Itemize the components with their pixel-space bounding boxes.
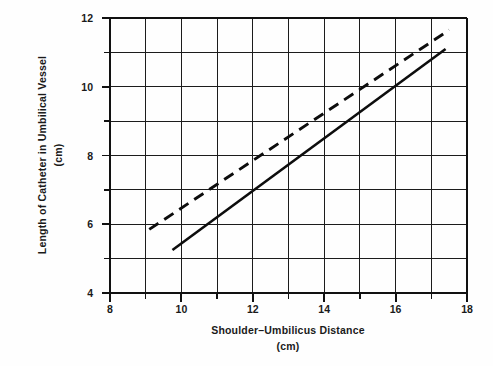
x-axis-title-main: Shoulder–Umbilicus Distance: [211, 324, 365, 336]
x-tick-labels: 8 10 12 14 16 18: [107, 303, 473, 315]
x-tick-label-16: 16: [390, 303, 402, 315]
y-tick-labels: 4 6 8 10 12: [81, 12, 93, 299]
y-tick-label-6: 6: [87, 218, 93, 230]
x-tick-label-10: 10: [176, 303, 188, 315]
y-tick-label-10: 10: [81, 81, 93, 93]
y-tick-marks: [102, 18, 111, 293]
y-tick-label-4: 4: [87, 287, 93, 299]
y-axis-title-main: Length of Catheter in Umbilical Vessel: [36, 56, 48, 254]
series-group: [149, 30, 449, 250]
chart-canvas: 8 10 12 14 16 18 4 6 8 10 12 Shoulder–Um…: [0, 0, 493, 366]
chart-figure: 8 10 12 14 16 18 4 6 8 10 12 Shoulder–Um…: [0, 0, 493, 366]
x-axis-title-units: (cm): [277, 340, 300, 352]
x-tick-label-8: 8: [107, 303, 113, 315]
y-axis-title: Length of Catheter in Umbilical Vessel (…: [36, 56, 64, 254]
y-axis-title-units: (cm): [52, 144, 64, 167]
x-axis-title: Shoulder–Umbilicus Distance (cm): [211, 324, 365, 352]
x-tick-marks: [110, 293, 467, 302]
series-line-solid: [172, 49, 445, 250]
series-line-dashed: [149, 30, 449, 229]
x-tick-label-14: 14: [318, 303, 330, 315]
y-tick-label-8: 8: [87, 150, 93, 162]
x-tick-label-12: 12: [247, 303, 259, 315]
x-tick-label-18: 18: [461, 303, 473, 315]
y-tick-label-12: 12: [81, 12, 93, 24]
